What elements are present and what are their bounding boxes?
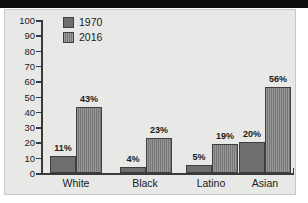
- x-label-black: Black: [110, 178, 180, 189]
- bar-value-black-2016: 23%: [150, 126, 168, 135]
- y-tick-40: [36, 112, 42, 114]
- bar-asian-1970[interactable]: 20%: [239, 142, 265, 173]
- chart-panel: 100 90 80 70 60 50 40 30 20 10 0 11%: [4, 9, 296, 195]
- y-tick-label-100: 100: [9, 16, 35, 26]
- x-axis-end-tick: [293, 168, 295, 174]
- y-tick-10: [36, 158, 42, 160]
- legend-item-2016[interactable]: 2016: [63, 31, 102, 44]
- chart-legend: 1970 2016: [63, 16, 102, 44]
- bar-white-1970[interactable]: 11%: [50, 156, 76, 173]
- y-tick-60: [36, 81, 42, 83]
- bar-value-latino-1970: 5%: [192, 153, 205, 162]
- legend-item-1970[interactable]: 1970: [63, 16, 102, 29]
- y-tick-0: [36, 173, 42, 175]
- plot-area: 100 90 80 70 60 50 40 30 20 10 0 11%: [5, 10, 297, 196]
- legend-label-1970: 1970: [79, 17, 102, 28]
- y-tick-label-70: 70: [9, 62, 35, 72]
- legend-swatch-1970-icon: [63, 17, 74, 28]
- bar-latino-2016[interactable]: 19%: [212, 144, 238, 173]
- bar-asian-2016[interactable]: 56%: [265, 87, 291, 173]
- legend-label-2016: 2016: [79, 32, 102, 43]
- y-tick-20: [36, 142, 42, 144]
- bar-white-2016[interactable]: 43%: [76, 107, 102, 173]
- y-tick-label-20: 20: [9, 138, 35, 148]
- bar-latino-1970[interactable]: 5%: [186, 165, 212, 173]
- chart-figure: 100 90 80 70 60 50 40 30 20 10 0 11%: [0, 0, 308, 203]
- y-tick-label-80: 80: [9, 47, 35, 57]
- bar-black-2016[interactable]: 23%: [146, 138, 172, 173]
- bar-value-white-1970: 11%: [54, 144, 72, 153]
- x-label-asian: Asian: [230, 178, 300, 189]
- y-tick-100: [36, 20, 42, 22]
- bar-black-1970[interactable]: 4%: [120, 167, 146, 173]
- bar-value-white-2016: 43%: [80, 95, 98, 104]
- x-label-white: White: [41, 178, 111, 189]
- y-tick-90: [36, 35, 42, 37]
- y-tick-30: [36, 127, 42, 129]
- y-tick-label-60: 60: [9, 77, 35, 87]
- y-tick-50: [36, 97, 42, 99]
- y-tick-label-10: 10: [9, 154, 35, 164]
- y-tick-label-30: 30: [9, 123, 35, 133]
- y-tick-80: [36, 51, 42, 53]
- y-tick-label-40: 40: [9, 108, 35, 118]
- y-tick-label-90: 90: [9, 31, 35, 41]
- bar-value-latino-2016: 19%: [216, 132, 234, 141]
- y-tick-label-50: 50: [9, 93, 35, 103]
- bar-value-black-1970: 4%: [126, 155, 139, 164]
- top-dark-band: [0, 0, 308, 8]
- legend-swatch-2016-icon: [63, 32, 74, 43]
- x-axis-line: [41, 173, 294, 175]
- bar-value-asian-2016: 56%: [269, 75, 287, 84]
- y-tick-70: [36, 66, 42, 68]
- bar-value-asian-1970: 20%: [243, 130, 261, 139]
- y-tick-label-0: 0: [9, 169, 35, 179]
